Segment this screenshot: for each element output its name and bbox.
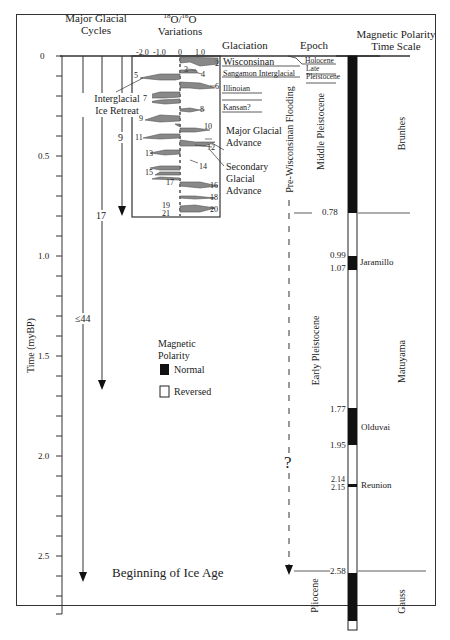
epoch-early-pleistocene: Early Pleistocene [310, 306, 321, 396]
stage-number: 4 [201, 69, 205, 80]
time-tick: 1.5 [38, 351, 49, 362]
annotation-line: Major Glacial [226, 125, 282, 137]
legend-normal: Normal [174, 364, 205, 375]
stage-number: 6 [215, 81, 219, 92]
epoch-line: Pleistocene [306, 73, 340, 81]
annotation-major-glacial: Major Glacial Advance [226, 125, 282, 149]
boundary-label: 1.07 [330, 263, 346, 274]
annotation-line: Advance [226, 185, 268, 197]
epoch-pliocene: Pliocene [309, 576, 320, 616]
stage-number: 13 [145, 148, 153, 159]
header-line: Cycles [56, 24, 136, 36]
time-axis-label: Time (myBP) [25, 316, 36, 376]
o18-tick: -2.0 [136, 47, 149, 58]
o16-sup: 16 [182, 12, 189, 20]
stage-number: 15 [145, 167, 153, 178]
annotation-secondary-glacial: Secondary Glacial Advance [226, 161, 268, 197]
o18-tick: -1.0 [153, 47, 166, 58]
header-glaciation: Glaciation [222, 40, 268, 51]
stage-number: 7 [143, 93, 147, 104]
epoch-late-pleistocene: Late Pleistocene [306, 65, 340, 81]
stage-number: 21 [162, 208, 170, 219]
event-olduvai: Olduvai [361, 422, 390, 433]
time-tick: 2.0 [38, 451, 49, 462]
annotation-line: Secondary [226, 161, 268, 173]
legend-reversed: Reversed [174, 386, 211, 397]
time-tick: 2.5 [38, 551, 49, 562]
time-tick: 0.5 [38, 151, 49, 162]
cycle-label: 9 [118, 132, 123, 143]
stage-number: 8 [200, 104, 204, 115]
question-mark: ? [284, 454, 292, 472]
stage-number: 2 [215, 58, 219, 69]
stage-number: 9 [139, 113, 143, 124]
boundary-label: 2.15 [331, 484, 345, 492]
stage-number: 16 [210, 180, 218, 191]
o18-sup: 18 [164, 12, 171, 20]
event-jaramillo: Jaramillo [360, 257, 394, 268]
boundary-label: 0.78 [322, 207, 338, 218]
header-magnetic-polarity: Magnetic Polarity Time Scale [346, 28, 446, 52]
stage-number: 11 [135, 132, 143, 143]
legend-title-line: Polarity [158, 350, 196, 362]
header-line: Major Glacial [56, 12, 136, 24]
glaciation-illinoian: Illinoian [223, 83, 250, 94]
cycle-label: 17 [96, 210, 106, 221]
boundary-label: 1.95 [330, 440, 346, 451]
legend-title-line: Magnetic [158, 338, 196, 350]
legend-title: Magnetic Polarity [158, 338, 196, 362]
annotation-pre-wisconsinan: Pre-Wisconsinan Flooding [284, 80, 295, 200]
o18-tick: 0 [178, 47, 182, 58]
time-tick: 0 [40, 51, 45, 62]
annotation-line: Interglacial [82, 93, 152, 105]
header-major-glacial-cycles: Major Glacial Cycles [56, 12, 136, 36]
glaciation-kansan: Kansan? [223, 102, 251, 113]
epoch-middle-pleistocene: Middle Pleistocene [315, 87, 326, 177]
o18-tick: 1.0 [195, 47, 205, 58]
cycle-label: ≤44 [75, 313, 91, 324]
header-line: Magnetic Polarity [346, 28, 446, 40]
o18-text: O/ [171, 13, 182, 25]
boundary-label: 0.99 [330, 250, 346, 261]
stage-number: 20 [210, 204, 218, 215]
chron-gauss: Gauss [396, 572, 407, 632]
boundary-label: 2.58 [330, 566, 346, 577]
stage-number: 5 [134, 70, 138, 81]
diagram-graphics [0, 0, 450, 640]
glaciation-wisconsinan: Wisconsinan [223, 56, 274, 67]
header-o18-variations: 18O/16O Variations [140, 10, 220, 37]
annotation-beginning-ice-age: Beginning of Ice Age [112, 566, 224, 580]
stage-number: 3 [184, 64, 188, 75]
chron-brunhes: Brunhes [396, 104, 407, 164]
stage-number: 10 [204, 121, 212, 132]
stage-number: 14 [199, 161, 207, 172]
annotation-line: Glacial [226, 173, 268, 185]
chron-matuyama: Matuyama [396, 332, 407, 392]
stage-number: 17 [166, 177, 174, 188]
o16-text: O [189, 13, 197, 25]
boundary-label: 1.77 [330, 404, 346, 415]
event-reunion: Reunion [361, 480, 392, 491]
stage-number: 12 [207, 142, 215, 153]
annotation-line: Advance [226, 137, 282, 149]
time-tick: 1.0 [38, 251, 49, 262]
header-epoch: Epoch [300, 40, 328, 51]
stage-number: 18 [210, 192, 218, 203]
header-line: Time Scale [346, 40, 446, 52]
glaciation-sangamon: Sangamon Interglacial [223, 68, 295, 79]
header-line: Variations [140, 25, 220, 37]
